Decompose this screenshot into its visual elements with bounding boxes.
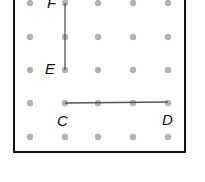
label-e: E [45,61,55,76]
label-f: F [47,0,56,10]
grid-dot [165,67,171,73]
grid-dot [165,0,171,6]
dot-grid [0,0,205,182]
grid-dot [27,34,33,40]
grid-dot [130,134,136,140]
grid-dot [27,100,33,106]
grid-dot [130,34,136,40]
grid-dot [95,134,101,140]
label-d: D [162,112,173,127]
label-c: C [57,113,68,128]
grid-dot [130,0,136,6]
grid-dot [27,67,33,73]
grid-dot [95,0,101,6]
grid-dot [62,134,68,140]
grid-dot [27,0,33,6]
grid-dot [95,34,101,40]
grid-dot [165,100,171,106]
grid-dot [165,34,171,40]
grid-dot [95,67,101,73]
grid-dot [165,134,171,140]
grid-dot [27,134,33,140]
grid-dot [130,67,136,73]
segment-cd [65,102,168,103]
